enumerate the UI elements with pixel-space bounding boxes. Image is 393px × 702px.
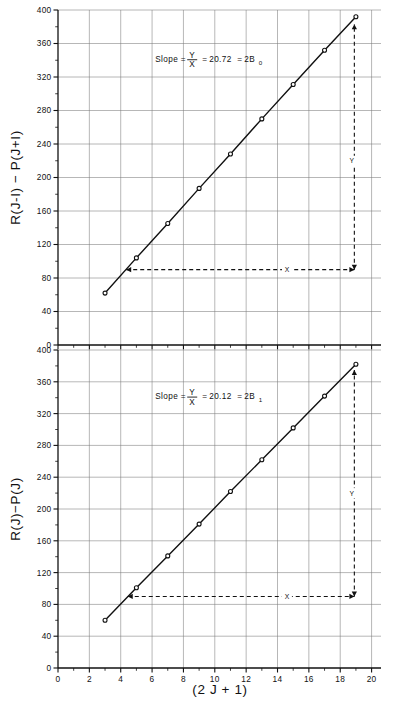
data-point-marker: [103, 291, 107, 295]
combination-difference-plots: 04080120160200240280320360400XYSlope =YX…: [0, 0, 393, 702]
data-point-marker: [354, 15, 358, 19]
slope-annotation-prefix: Slope =: [155, 55, 186, 64]
y-tick-label: 0: [47, 663, 52, 673]
y-tick-label: 400: [37, 345, 52, 355]
slope-annotation-prefix: Slope =: [155, 392, 186, 401]
slope-annotation-result: 2B: [244, 392, 255, 401]
y-tick-label: 40: [42, 631, 52, 641]
data-point-marker: [291, 83, 295, 87]
data-point-marker: [228, 490, 232, 494]
y-axis: 04080120160200240280320360400: [37, 345, 58, 673]
x-axis-label: (2 J + 1): [192, 682, 247, 697]
y-tick-label: 240: [37, 472, 52, 482]
data-point-marker: [166, 222, 170, 226]
x-tick-label: 6: [150, 674, 155, 684]
slope-annotation-result: 2B: [244, 55, 255, 64]
y-tick-label: 360: [37, 377, 52, 387]
data-point-marker: [197, 186, 201, 190]
slope-annotation-equals-1: =: [202, 392, 207, 401]
y-tick-label: 160: [37, 536, 52, 546]
slope-annotation-equals-2: =: [237, 55, 242, 64]
construction-lines: [128, 370, 357, 599]
y-tick-label: 240: [37, 139, 52, 149]
y-axis: 04080120160200240280320360400: [37, 5, 58, 350]
arrowhead-y-top: [352, 370, 357, 375]
data-point-marker: [323, 48, 327, 52]
construction-x-label: X: [285, 593, 290, 600]
data-point-marker: [260, 117, 264, 121]
y-tick-label: 200: [37, 172, 52, 182]
panel-top: 04080120160200240280320360400XYSlope =YX…: [8, 5, 381, 350]
slope-annotation-value: 20.12: [209, 392, 232, 401]
panel-bottom: 0408012016020024028032036040002468101214…: [8, 345, 381, 684]
y-tick-label: 120: [37, 568, 52, 578]
y-tick-label: 400: [37, 5, 52, 15]
x-tick-label: 8: [181, 674, 186, 684]
slope-annotation-value: 20.72: [209, 55, 232, 64]
slope-annotation-result-subscript: 1: [259, 396, 263, 403]
x-tick-label: 18: [335, 674, 345, 684]
data-point-marker: [103, 618, 107, 622]
data-point-marker: [134, 256, 138, 260]
y-tick-label: 280: [37, 105, 52, 115]
slope-annotation-denominator: X: [189, 60, 195, 69]
slope-annotation-numerator: Y: [189, 388, 195, 397]
y-tick-label: 120: [37, 239, 52, 249]
y-tick-label: 80: [42, 599, 52, 609]
y-tick-label: 280: [37, 440, 52, 450]
x-tick-label: 4: [118, 674, 123, 684]
y-tick-label: 80: [42, 273, 52, 283]
data-point-marker: [323, 394, 327, 398]
construction-y-label: Y: [350, 490, 355, 497]
slope-annotation-equals-1: =: [202, 55, 207, 64]
slope-annotation-denominator: X: [189, 398, 195, 407]
x-axis: [58, 345, 372, 350]
arrowhead-y-top: [352, 24, 357, 29]
data-point-marker: [197, 522, 201, 526]
y-tick-label: 320: [37, 409, 52, 419]
y-tick-label: 320: [37, 72, 52, 82]
slope-annotation: Slope =YX=20.12=2B1: [155, 388, 263, 407]
data-point-marker: [166, 554, 170, 558]
figure-root: 04080120160200240280320360400XYSlope =YX…: [0, 0, 393, 702]
y-tick-label: 200: [37, 504, 52, 514]
y-axis-label: R(J-I) − P(J+I): [8, 130, 23, 225]
x-tick-label: 14: [273, 674, 283, 684]
y-axis-label: R(J)−P(J): [8, 477, 23, 541]
y-tick-label: 360: [37, 38, 52, 48]
slope-annotation: Slope =YX=20.72=2B0: [155, 51, 263, 70]
construction-y-label: Y: [350, 157, 355, 164]
x-tick-label: 16: [304, 674, 314, 684]
data-point-marker: [134, 586, 138, 590]
construction-x-label: X: [285, 266, 290, 273]
slope-annotation-equals-2: =: [237, 392, 242, 401]
y-tick-label: 160: [37, 206, 52, 216]
x-tick-label: 20: [367, 674, 377, 684]
slope-annotation-result-subscript: 0: [259, 59, 263, 66]
data-point-marker: [260, 458, 264, 462]
x-tick-label: 0: [56, 674, 61, 684]
data-point-marker: [228, 152, 232, 156]
x-tick-label: 2: [87, 674, 92, 684]
data-point-marker: [291, 426, 295, 430]
y-tick-label: 40: [42, 306, 52, 316]
slope-annotation-numerator: Y: [189, 51, 195, 60]
data-point-marker: [354, 362, 358, 366]
